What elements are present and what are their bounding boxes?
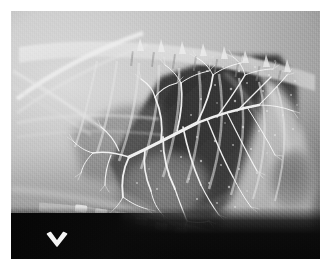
lateral-thoracic-radiograph	[11, 11, 320, 259]
page-background	[0, 0, 330, 273]
vignette-overlay	[11, 11, 320, 259]
